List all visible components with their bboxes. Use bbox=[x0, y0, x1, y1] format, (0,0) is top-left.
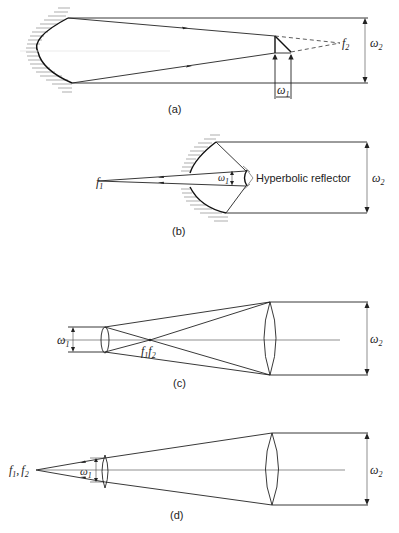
caption-b: (b) bbox=[172, 225, 185, 237]
large-lens bbox=[266, 433, 279, 505]
panel-c: f1f2 ω1 ω2 (c) bbox=[57, 302, 382, 389]
focus-label-f2: f2 bbox=[342, 36, 349, 52]
hyperbolic-reflector-label: Hyperbolic reflector bbox=[256, 172, 351, 184]
hyperbolic-reflector bbox=[245, 170, 248, 186]
omega1-label-b: ω1 bbox=[218, 172, 229, 186]
focus-label-f1: f1 bbox=[96, 175, 103, 191]
panel-d: f1,f2 ω1 ω2 (d) bbox=[9, 433, 382, 521]
caption-a: (a) bbox=[168, 103, 181, 115]
omega2-label-b: ω2 bbox=[372, 171, 384, 187]
caption-d: (d) bbox=[170, 509, 183, 521]
large-lens bbox=[264, 302, 276, 375]
panel-a: f2 ω1 ω2 (a) bbox=[20, 8, 382, 115]
focus-label-f1f2: f1f2 bbox=[141, 344, 156, 360]
omega2-label-d: ω2 bbox=[370, 463, 382, 479]
omega2-label-a: ω2 bbox=[370, 36, 382, 52]
focus-label-f1-f2: f1,f2 bbox=[9, 463, 29, 479]
omega2-label-c: ω2 bbox=[370, 332, 382, 348]
omega1-label-c: ω1 bbox=[57, 333, 69, 349]
caption-c: (c) bbox=[173, 377, 186, 389]
beam-expander-diagram: f2 ω1 ω2 (a) bbox=[0, 0, 399, 533]
panel-b: f1 ω1 Hyperbolic reflector ω2 (b) bbox=[96, 135, 384, 237]
small-lens bbox=[102, 455, 108, 488]
parabolic-mirror bbox=[190, 142, 216, 173]
omega1-label-a: ω1 bbox=[277, 83, 289, 99]
